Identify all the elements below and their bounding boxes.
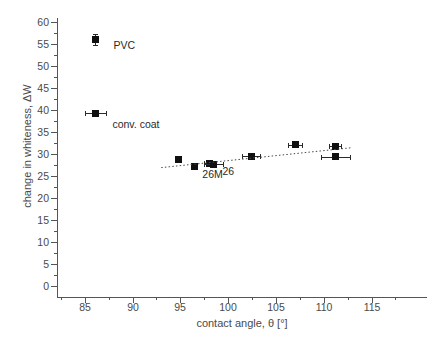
x-error-cap bbox=[85, 111, 86, 116]
x-tick-minor bbox=[204, 297, 205, 300]
y-tick-minor bbox=[54, 121, 57, 122]
data-point-marker bbox=[332, 143, 339, 150]
y-tick bbox=[51, 44, 57, 45]
x-tick-minor bbox=[61, 297, 62, 300]
y-tick bbox=[51, 22, 57, 23]
y-tick bbox=[51, 286, 57, 287]
x-error-cap bbox=[204, 162, 205, 167]
x-error-cap bbox=[106, 111, 107, 116]
y-tick bbox=[51, 176, 57, 177]
x-tick-minor bbox=[348, 297, 349, 300]
trendline bbox=[161, 148, 350, 168]
x-error-cap bbox=[350, 155, 351, 160]
y-axis-line bbox=[57, 18, 58, 297]
data-point-marker bbox=[175, 156, 182, 163]
x-tick-label: 115 bbox=[352, 302, 392, 313]
y-tick bbox=[51, 198, 57, 199]
x-tick-label: 110 bbox=[304, 302, 344, 313]
x-axis-title: contact angle, θ [°] bbox=[57, 317, 427, 329]
data-point-marker bbox=[92, 36, 99, 43]
point-annotation: 26 bbox=[222, 166, 234, 177]
y-tick-minor bbox=[54, 77, 57, 78]
x-tick-minor bbox=[109, 297, 110, 300]
y-tick-minor bbox=[54, 187, 57, 188]
y-tick-minor bbox=[54, 253, 57, 254]
point-annotation: conv. coat bbox=[112, 119, 159, 130]
point-annotation: 26M bbox=[202, 169, 222, 180]
point-annotation: PVC bbox=[113, 40, 135, 51]
x-tick-label: 105 bbox=[256, 302, 296, 313]
x-tick-label: 85 bbox=[65, 302, 105, 313]
x-tick-label: 90 bbox=[113, 302, 153, 313]
y-tick-label: 60 bbox=[9, 17, 49, 27]
y-tick bbox=[51, 154, 57, 155]
data-point-marker bbox=[292, 141, 299, 148]
y-tick-label: 5 bbox=[9, 259, 49, 269]
data-point-marker bbox=[191, 163, 198, 170]
x-error-cap bbox=[329, 144, 330, 149]
y-axis-title: change in whiteness, ΔW bbox=[21, 36, 33, 256]
y-tick bbox=[51, 264, 57, 265]
x-error-cap bbox=[341, 144, 342, 149]
y-tick bbox=[51, 132, 57, 133]
data-point-marker bbox=[332, 153, 339, 160]
x-error-cap bbox=[302, 143, 303, 148]
x-tick-minor bbox=[252, 297, 253, 300]
y-tick bbox=[51, 110, 57, 111]
x-error-cap bbox=[321, 155, 322, 160]
y-tick-minor bbox=[54, 231, 57, 232]
y-tick-minor bbox=[54, 99, 57, 100]
y-error-cap bbox=[93, 45, 98, 46]
y-tick bbox=[51, 88, 57, 89]
y-tick-minor bbox=[54, 209, 57, 210]
x-tick-label: 100 bbox=[208, 302, 248, 313]
scatter-chart-figure: 0510152025303540455055608590951001051101… bbox=[0, 0, 443, 340]
data-point-marker bbox=[248, 153, 255, 160]
x-error-cap bbox=[288, 143, 289, 148]
y-tick bbox=[51, 66, 57, 67]
data-point-marker bbox=[92, 110, 99, 117]
y-tick bbox=[51, 220, 57, 221]
x-error-cap bbox=[242, 154, 243, 159]
y-tick-label: 0 bbox=[9, 281, 49, 291]
y-tick-minor bbox=[54, 33, 57, 34]
x-tick-label: 95 bbox=[160, 302, 200, 313]
data-point-marker bbox=[210, 161, 217, 168]
x-error-cap bbox=[260, 154, 261, 159]
x-tick-minor bbox=[395, 297, 396, 300]
y-tick-minor bbox=[54, 165, 57, 166]
x-tick-minor bbox=[156, 297, 157, 300]
y-tick-minor bbox=[54, 143, 57, 144]
x-tick-minor bbox=[300, 297, 301, 300]
y-tick-minor bbox=[54, 275, 57, 276]
y-tick-minor bbox=[54, 55, 57, 56]
y-tick bbox=[51, 242, 57, 243]
